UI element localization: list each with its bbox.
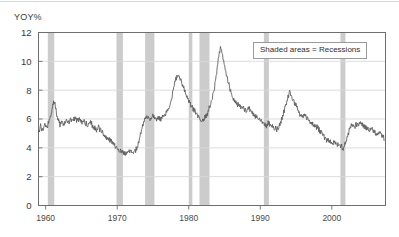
svg-text:0: 0 (26, 200, 31, 211)
svg-text:6: 6 (26, 113, 31, 124)
svg-text:1970: 1970 (108, 213, 127, 223)
legend-shaded-areas: Shaded areas = Recessions (253, 42, 367, 59)
svg-text:10: 10 (21, 56, 32, 67)
svg-text:1990: 1990 (251, 213, 270, 223)
svg-text:2000: 2000 (322, 213, 341, 223)
svg-text:1960: 1960 (36, 213, 55, 223)
svg-text:2: 2 (26, 171, 31, 182)
gridlines (39, 61, 386, 176)
x-axis-ticks: 19601970198019902000 (36, 206, 341, 223)
svg-text:12: 12 (21, 27, 32, 38)
svg-text:8: 8 (26, 85, 31, 96)
y-axis-ticks: 024681012 (21, 27, 43, 211)
data-series-line (39, 46, 385, 155)
chart-figure: YOY% 024681012 19601970198019902000 Shad… (0, 0, 399, 237)
svg-text:4: 4 (26, 142, 31, 153)
svg-text:1980: 1980 (179, 213, 198, 223)
chart-plot-area: 024681012 19601970198019902000 (0, 0, 399, 237)
